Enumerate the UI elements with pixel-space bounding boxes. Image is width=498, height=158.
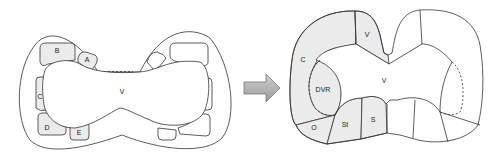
line-right-top-divider — [420, 10, 422, 44]
label-o: O — [311, 124, 317, 131]
line-right-o-divider — [440, 112, 448, 142]
line-right-edge-divider — [440, 112, 480, 125]
label-dvr: DVR — [316, 86, 331, 93]
label-s: S — [371, 116, 376, 123]
label-v-left: V — [120, 88, 125, 95]
diagram-canvas: B A C D E V C V DVR V O — [0, 0, 498, 158]
right-diagram: C V DVR V O St S — [290, 10, 483, 144]
label-c: C — [37, 93, 42, 100]
label-v-top: V — [365, 31, 370, 38]
transition-arrow-icon — [244, 74, 280, 102]
label-v-center: V — [382, 77, 387, 84]
nucleus-right-bottom — [158, 128, 176, 140]
label-st: St — [342, 121, 349, 128]
left-ventricle — [43, 61, 209, 128]
label-a: A — [85, 56, 90, 63]
line-right-low-divider — [413, 100, 415, 138]
label-c-right: C — [300, 56, 305, 63]
label-e: E — [77, 129, 82, 136]
label-b: B — [55, 47, 60, 54]
label-d: D — [44, 124, 49, 131]
left-diagram: B A C D E V — [19, 32, 231, 149]
